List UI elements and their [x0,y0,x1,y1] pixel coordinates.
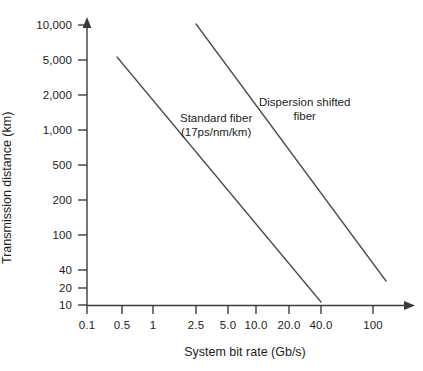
annotation-standard-fiber: Standard fiber (17ps/nm/km) [180,111,252,139]
x-tick-label-20.0: 20.0 [278,319,301,331]
x-tick-label-40.0: 40.0 [310,319,333,331]
series-line-standard-fiber [117,57,321,302]
x-axis-title: System bit rate (Gb/s) [184,345,306,359]
x-tick-label-0.5: 0.5 [114,319,130,331]
chart-figure: 10,000 5,000 2,000 1,000 500 200 100 40 … [0,0,423,371]
y-tick-label-5000: 5,000 [0,54,72,66]
x-tick-label-10.0: 10.0 [245,319,268,331]
y-axis-ticks [78,25,87,305]
x-tick-label-100: 100 [363,319,383,331]
annotation-standard-fiber-line1: Standard fiber [180,111,252,125]
y-tick-label-10: 10 [0,299,72,311]
x-tick-label-0.1: 0.1 [79,319,95,331]
annotation-dispersion-shifted-fiber: Dispersion shifted fiber [259,95,350,123]
x-tick-label-2.5: 2.5 [188,319,204,331]
x-tick-label-5.0: 5.0 [220,319,236,331]
x-axis-arrow-icon [404,301,415,310]
series-line-dispersion-shifted-fiber [196,24,386,281]
y-tick-label-10000: 10,000 [0,19,72,31]
x-tick-label-1: 1 [150,319,157,331]
y-axis-arrow-icon [83,17,92,28]
annotation-dispersion-shifted-fiber-line1: Dispersion shifted [259,95,350,109]
x-axis-ticks [87,306,373,315]
y-tick-label-20: 20 [0,282,72,294]
y-tick-label-40: 40 [0,264,72,276]
y-axis-title: Transmission distance (km) [0,112,14,264]
annotation-dispersion-shifted-fiber-line2: fiber [259,109,350,123]
y-tick-label-2000: 2,000 [0,89,72,101]
annotation-standard-fiber-line2: (17ps/nm/km) [180,125,252,139]
